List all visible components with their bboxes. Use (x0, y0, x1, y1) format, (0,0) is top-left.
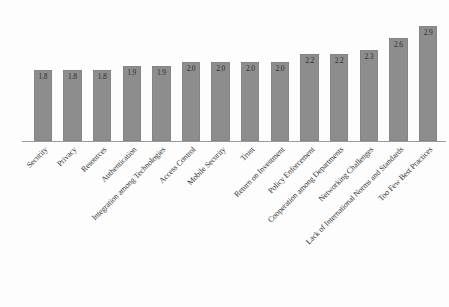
bar-value-label: 2.0 (271, 65, 289, 73)
bar-value-label: 2.0 (182, 65, 200, 73)
bar-slot: 1.8 (28, 18, 58, 141)
bar-slot: 1.8 (87, 18, 117, 141)
bar[interactable]: 2.0 (271, 62, 289, 141)
bar-slot: 2.2 (324, 18, 354, 141)
bar-value-label: 2.3 (360, 53, 378, 61)
bar[interactable]: 1.8 (93, 70, 111, 141)
category-label: Trust (239, 145, 257, 163)
category-label: Privacy (56, 145, 79, 168)
bar[interactable]: 2.9 (419, 26, 437, 141)
category-label: Resources (79, 145, 108, 174)
bar-value-label: 1.9 (123, 69, 141, 77)
bar[interactable]: 1.8 (63, 70, 81, 141)
bar[interactable]: 2.6 (389, 38, 407, 141)
plot-area: 1.81.81.81.91.92.02.02.02.02.22.22.32.62… (28, 18, 443, 141)
bar-slot: 1.9 (117, 18, 147, 141)
bar-slot: 1.9 (147, 18, 177, 141)
bar-value-label: 1.8 (93, 73, 111, 81)
bar-slot: 1.8 (58, 18, 88, 141)
bar[interactable]: 2.0 (182, 62, 200, 141)
bar-value-label: 1.9 (152, 69, 170, 77)
bar-slot: 2.2 (295, 18, 325, 141)
bar-value-label: 1.8 (63, 73, 81, 81)
bar[interactable]: 2.3 (360, 50, 378, 141)
category-label: Security (25, 145, 50, 170)
x-axis-category-labels: SecurityPrivacyResourcesAuthenticationIn… (28, 143, 443, 303)
bar-value-label: 2.9 (419, 29, 437, 37)
bar[interactable]: 2.0 (241, 62, 259, 141)
bar-slot: 2.9 (413, 18, 443, 141)
bar[interactable]: 1.9 (123, 66, 141, 141)
bar[interactable]: 1.9 (152, 66, 170, 141)
x-axis-line (22, 141, 446, 142)
bar-value-label: 2.6 (389, 41, 407, 49)
bar-slot: 2.6 (384, 18, 414, 141)
bar[interactable]: 1.8 (34, 70, 52, 141)
bar-value-label: 2.0 (241, 65, 259, 73)
bar-value-label: 2.0 (211, 65, 229, 73)
category-label: Networking Challenges (317, 145, 375, 203)
bar-value-label: 2.2 (300, 57, 318, 65)
bar-slot: 2.0 (206, 18, 236, 141)
bar[interactable]: 2.2 (300, 54, 318, 141)
bar-slot: 2.3 (354, 18, 384, 141)
bar-chart: 1.81.81.81.91.92.02.02.02.02.22.22.32.62… (0, 0, 449, 307)
bars-container: 1.81.81.81.91.92.02.02.02.02.22.22.32.62… (28, 18, 443, 141)
bar-slot: 2.0 (265, 18, 295, 141)
category-label: Too Few Best Practices (377, 145, 435, 203)
bar[interactable]: 2.0 (211, 62, 229, 141)
bar-slot: 2.0 (235, 18, 265, 141)
bar-slot: 2.0 (176, 18, 206, 141)
bar-value-label: 1.8 (34, 73, 52, 81)
bar-value-label: 2.2 (330, 57, 348, 65)
bar[interactable]: 2.2 (330, 54, 348, 141)
